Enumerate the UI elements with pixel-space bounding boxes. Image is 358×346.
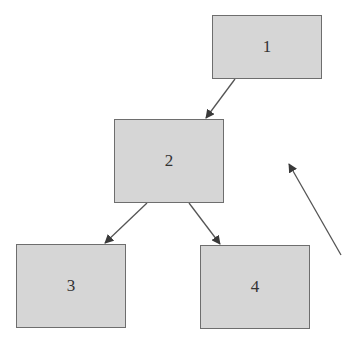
node-3: 3 bbox=[16, 244, 126, 328]
node-2: 2 bbox=[114, 119, 224, 203]
node-2-label: 2 bbox=[165, 151, 174, 171]
node-4: 4 bbox=[200, 245, 310, 329]
node-3-label: 3 bbox=[67, 276, 76, 296]
edge-1-to-2 bbox=[206, 79, 235, 118]
free-arrow bbox=[289, 164, 341, 255]
node-4-label: 4 bbox=[251, 277, 260, 297]
node-1: 1 bbox=[212, 15, 322, 79]
edge-2-to-4 bbox=[189, 203, 220, 244]
edge-2-to-3 bbox=[105, 203, 147, 243]
node-1-label: 1 bbox=[263, 37, 272, 57]
